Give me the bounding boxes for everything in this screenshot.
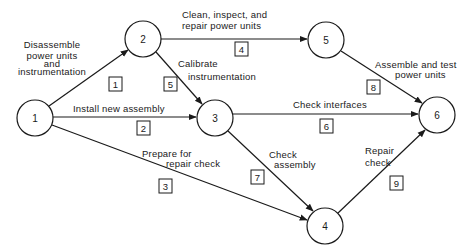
activity-box-5: 5 bbox=[164, 77, 177, 91]
node-5-label: 5 bbox=[323, 35, 329, 46]
node-4-label: 4 bbox=[322, 221, 328, 232]
activity-box-9-number: 9 bbox=[394, 178, 399, 189]
activity-1-desc-line-4: instrumentation bbox=[18, 66, 86, 77]
edges bbox=[49, 39, 425, 220]
activity-box-8: 8 bbox=[367, 80, 380, 94]
node-2-label: 2 bbox=[140, 34, 146, 45]
activity-box-7-number: 7 bbox=[255, 172, 260, 183]
activity-box-4: 4 bbox=[235, 42, 248, 56]
edge-3-to-4 bbox=[228, 131, 313, 211]
activity-5-desc-line-1: Calibrate bbox=[178, 58, 218, 69]
edge-1-to-4 bbox=[52, 125, 307, 220]
activity-box-6-number: 6 bbox=[324, 121, 329, 132]
activity-9-desc-line-2: check bbox=[365, 157, 391, 168]
node-2: 2 bbox=[125, 21, 161, 57]
activity-box-7: 7 bbox=[251, 170, 264, 184]
activity-8-desc-line-2: power units bbox=[395, 69, 446, 80]
edge-4-to-6 bbox=[338, 130, 425, 213]
activity-5-desc-line-2: instrumentation bbox=[188, 71, 256, 82]
activity-box-8-number: 8 bbox=[371, 82, 376, 93]
node-6-label: 6 bbox=[434, 110, 440, 121]
activity-box-4-number: 4 bbox=[239, 44, 244, 55]
activity-box-6: 6 bbox=[320, 119, 333, 133]
activity-6-desc-line-1: Check interfaces bbox=[293, 99, 367, 110]
node-3: 3 bbox=[197, 100, 233, 136]
node-5: 5 bbox=[308, 22, 344, 58]
node-4: 4 bbox=[307, 208, 343, 244]
activity-box-5-number: 5 bbox=[168, 79, 173, 90]
activity-7-desc-line-2: assembly bbox=[274, 159, 316, 170]
activity-network-diagram: 1 2 3 4 5 6 1 2 bbox=[0, 0, 468, 250]
activity-9-desc-line-1: Repair bbox=[365, 145, 394, 156]
activity-box-3: 3 bbox=[159, 179, 172, 193]
activity-box-2-number: 2 bbox=[141, 123, 146, 134]
activity-box-1-number: 1 bbox=[113, 79, 118, 90]
node-3-label: 3 bbox=[212, 113, 218, 124]
activity-1-desc-line-1: Disassemble bbox=[24, 39, 81, 50]
activity-4-desc-line-1: Clean, inspect, and bbox=[182, 9, 267, 20]
activity-2-desc-line-1: Install new assembly bbox=[73, 103, 165, 114]
activity-box-2: 2 bbox=[137, 121, 150, 135]
activity-box-1: 1 bbox=[109, 77, 122, 91]
activity-4-desc-line-2: repair power units bbox=[182, 20, 261, 31]
node-6: 6 bbox=[419, 97, 455, 133]
node-1-label: 1 bbox=[32, 113, 38, 124]
activity-box-9: 9 bbox=[390, 176, 403, 190]
activity-3-desc-line-2: repair check bbox=[166, 158, 220, 169]
activity-descriptions: Disassemble power units and instrumentat… bbox=[18, 9, 457, 170]
activity-box-3-number: 3 bbox=[163, 181, 168, 192]
node-1: 1 bbox=[17, 100, 53, 136]
